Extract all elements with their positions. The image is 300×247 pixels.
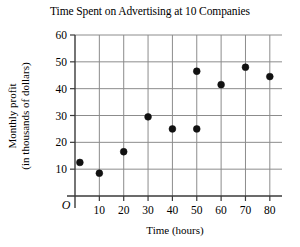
y-tick-label-10: 10 (56, 163, 68, 175)
data-point (218, 81, 225, 88)
y-tick-label-50: 50 (56, 56, 68, 68)
x-tick-label-50: 50 (191, 204, 203, 216)
y-tick-label-60: 60 (56, 29, 68, 41)
x-tick-label-30: 30 (142, 204, 154, 216)
y-gridlines (75, 35, 282, 169)
data-point (193, 126, 200, 133)
data-point (193, 68, 200, 75)
scatter-plot-figure: Time Spent on Advertising at 10 Companie… (0, 0, 300, 247)
x-tick-label-60: 60 (215, 204, 227, 216)
y-tick-label-20: 20 (56, 136, 68, 148)
plot-area: 102030405060 1020304050607080 O (0, 0, 300, 247)
x-tick-label-80: 80 (264, 204, 276, 216)
data-point (169, 126, 176, 133)
origin-label: O (62, 198, 71, 212)
data-point (266, 73, 273, 80)
data-point (242, 64, 249, 71)
data-point (96, 170, 103, 177)
data-point (76, 159, 83, 166)
data-point (145, 113, 152, 120)
x-tick-label-10: 10 (94, 204, 106, 216)
y-tick-group: 102030405060 (56, 29, 76, 175)
x-tick-label-70: 70 (240, 204, 252, 216)
x-tick-group: 1020304050607080 (94, 196, 276, 216)
y-tick-label-40: 40 (56, 83, 68, 95)
data-point-group (76, 64, 273, 177)
x-tick-label-20: 20 (118, 204, 130, 216)
x-tick-label-40: 40 (167, 204, 179, 216)
data-point (120, 148, 127, 155)
y-tick-label-30: 30 (56, 110, 68, 122)
